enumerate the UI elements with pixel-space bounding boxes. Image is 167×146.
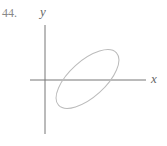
- ellipse-curve: [46, 40, 128, 119]
- diagram: [0, 0, 167, 146]
